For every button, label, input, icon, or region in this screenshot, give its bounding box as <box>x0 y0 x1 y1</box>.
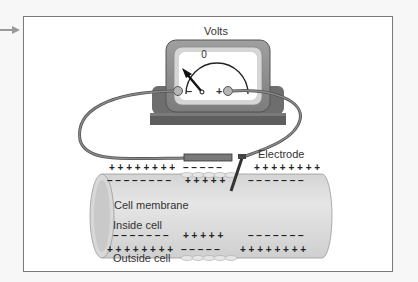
outside-cell-label: Outside cell <box>113 252 170 264</box>
outer-top-mid-charges: – – – – – <box>183 162 222 173</box>
electrode-label: Electrode <box>258 148 304 160</box>
outer-bottom-mid-charges: – – – – – <box>181 244 220 255</box>
positive-terminal <box>224 87 233 96</box>
meter-title: Volts <box>204 25 228 37</box>
inner-bottom-mid-charges: + + + + + <box>183 230 223 241</box>
inner-top-mid-charges: + + + + + <box>185 175 225 186</box>
cell-membrane-label: Cell membrane <box>114 199 189 211</box>
reference-electrode <box>184 154 232 161</box>
negative-terminal <box>174 87 183 96</box>
meter-minus-label: – <box>186 85 192 97</box>
meter-zero-label: 0 <box>201 49 207 60</box>
voltmeter <box>150 40 286 125</box>
inner-top-right-charges: – – – – – – – <box>248 175 304 186</box>
outer-top-left-charges: + + + + + + + + <box>109 162 175 173</box>
inside-cell-label: Inside cell <box>113 219 162 231</box>
inner-bottom-left-charges: – – – – – – – <box>113 230 169 241</box>
inner-bottom-right-charges: – – – – – – – <box>248 230 304 241</box>
meter-plus-label: + <box>216 85 222 97</box>
outer-top-right-charges: + + + + + + + + <box>254 162 320 173</box>
outer-bottom-right-charges: + + + + + + + + <box>240 244 306 255</box>
membrane-potential-diagram: Volts 0 – + Electrode <box>0 0 418 282</box>
inner-top-left-charges: – – – – – – – – <box>107 175 171 186</box>
